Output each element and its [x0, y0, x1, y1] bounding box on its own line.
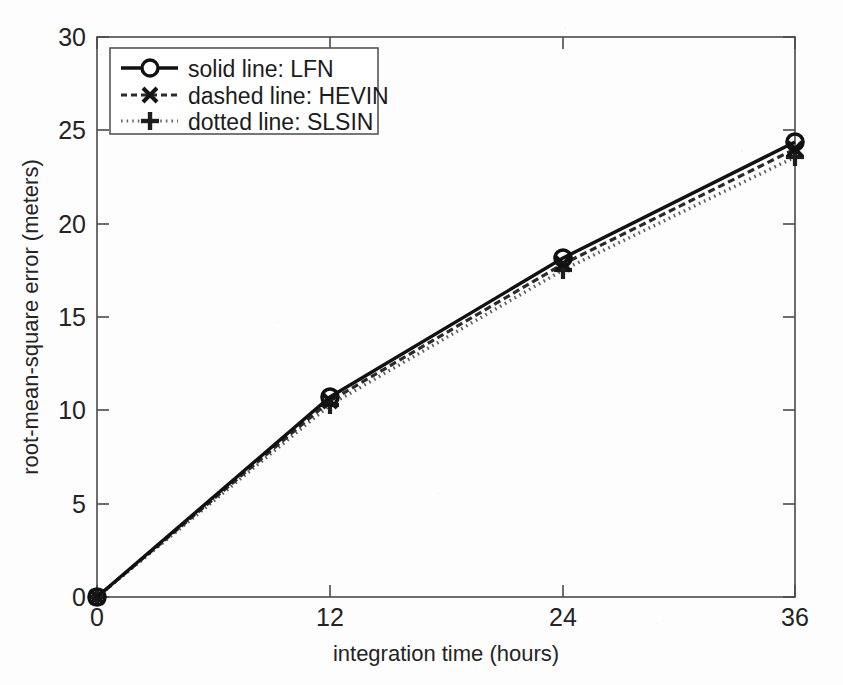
x-tick-label-0: 0	[90, 603, 104, 631]
circle-marker-icon	[142, 60, 158, 76]
series-hevin-markers	[90, 142, 802, 604]
y-tick-label-15: 15	[58, 303, 86, 331]
y-tick-label-10: 10	[58, 396, 86, 424]
series-slsin	[88, 148, 804, 606]
x-tick-labels: 0 12 24 36	[90, 603, 809, 631]
y-axis-label: root-mean-square error (meters)	[18, 159, 43, 474]
x-tick-label-12: 12	[316, 603, 344, 631]
series-lfn	[89, 134, 803, 605]
legend-label-lfn: solid line: LFN	[188, 56, 334, 82]
series-hevin	[90, 142, 802, 604]
y-tick-label-5: 5	[72, 490, 86, 518]
y-tick-label-25: 25	[58, 116, 86, 144]
x-tick-label-24: 24	[549, 603, 577, 631]
y-tick-label-0: 0	[72, 583, 86, 611]
rms-error-line-chart: 30 25 20 15 10 5 0 0 12 24 36 integratio…	[0, 0, 843, 685]
series-slsin-line	[97, 157, 795, 597]
legend-label-slsin: dotted line: SLSIN	[188, 109, 373, 135]
x-tick-label-36: 36	[781, 603, 809, 631]
chart-legend[interactable]: solid line: LFN dashed line: HEVIN dotte…	[110, 48, 389, 135]
series-slsin-markers	[88, 148, 804, 606]
series-lfn-markers	[89, 134, 803, 605]
y-tick-labels: 30 25 20 15 10 5 0	[58, 23, 86, 611]
x-axis-label: integration time (hours)	[333, 641, 559, 666]
legend-label-hevin: dashed line: HEVIN	[188, 83, 389, 109]
series-lfn-line	[97, 142, 795, 597]
y-tick-label-20: 20	[58, 210, 86, 238]
chart-figure: 30 25 20 15 10 5 0 0 12 24 36 integratio…	[0, 0, 843, 685]
y-tick-label-30: 30	[58, 23, 86, 51]
series-hevin-line	[97, 149, 795, 597]
